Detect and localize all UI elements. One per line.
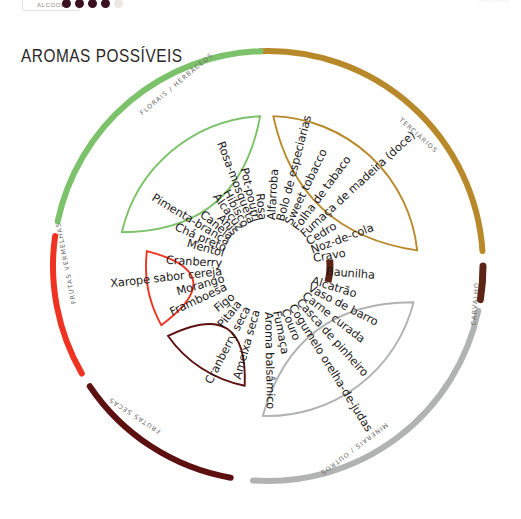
header-bar: ALCOOL AROMAS	[0, 0, 521, 14]
alcool-rating-dots	[62, 0, 123, 8]
aroma-wheel: TERCIÁRIOSCARVALHOMINERAIS / OUTROSFRUTA…	[0, 14, 521, 519]
aroma-wheel-svg	[0, 14, 521, 519]
rating-dot-empty	[114, 0, 123, 8]
aroma-label: Rosa	[254, 193, 271, 221]
header-right-label: AROMAS	[479, 0, 509, 3]
aroma-label: Aroma balsâmico	[262, 312, 278, 409]
rating-dot	[62, 0, 71, 8]
rating-dot	[101, 0, 110, 8]
rating-dot	[88, 0, 97, 8]
rating-dot	[75, 0, 84, 8]
